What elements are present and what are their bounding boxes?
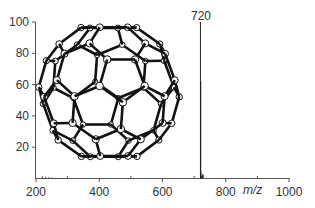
bond bbox=[39, 61, 47, 87]
y-tick-label: 100 bbox=[9, 15, 29, 29]
bond bbox=[111, 98, 119, 124]
x-tick-label: 600 bbox=[152, 185, 172, 199]
isotope-peak bbox=[202, 175, 204, 179]
y-tick-label: 40 bbox=[16, 109, 30, 123]
y-tick-label: 80 bbox=[16, 46, 30, 60]
mass-spectrum-chart: 20406080100 2004006008001000 m/z 720 bbox=[0, 0, 315, 208]
x-axis: 2004006008001000 m/z bbox=[26, 176, 303, 199]
y-tick-label: 60 bbox=[16, 78, 30, 92]
peak-label-720: 720 bbox=[191, 9, 211, 23]
x-axis-title: m/z bbox=[243, 183, 262, 197]
x-tick-label: 1000 bbox=[276, 185, 303, 199]
x-tick-label: 800 bbox=[216, 185, 236, 199]
x-tick-label: 200 bbox=[26, 185, 46, 199]
x-tick-label: 400 bbox=[89, 185, 109, 199]
bond bbox=[172, 97, 180, 123]
bond bbox=[58, 140, 81, 156]
y-axis: 20406080100 bbox=[9, 15, 36, 179]
y-tick-label: 20 bbox=[16, 140, 30, 154]
c60-fullerene-molecule-illustration bbox=[36, 24, 183, 160]
atom bbox=[96, 82, 104, 90]
bond bbox=[95, 55, 97, 82]
